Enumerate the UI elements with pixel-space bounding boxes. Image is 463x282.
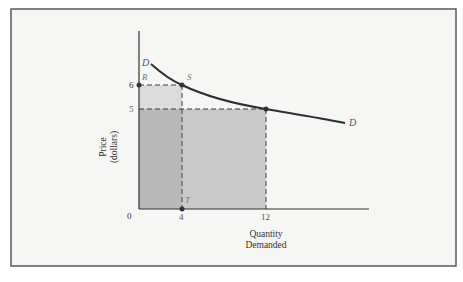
x-axis-label-line2: Demanded	[245, 240, 286, 250]
revenue-area-price-6-top	[139, 85, 182, 109]
x-tick-12: 12	[261, 212, 270, 222]
y-axis-label-line2: (dollars)	[109, 131, 120, 163]
y-tick-5: 5	[129, 104, 134, 114]
curve-label-start: D	[141, 57, 150, 68]
y-axis-label-line1: Price	[98, 137, 108, 157]
x-tick-4: 4	[179, 212, 184, 222]
label-s: S	[187, 72, 192, 82]
point-t	[180, 207, 185, 212]
x-axis-label-line1: Quantity	[249, 229, 282, 239]
point-equilibrium-12-5	[264, 107, 269, 112]
point-s	[180, 83, 185, 88]
y-tick-6: 6	[129, 80, 134, 90]
chart-svg: D D R S T 6 5 0 4 12 Quantity Demanded P…	[0, 0, 463, 282]
chart-figure: D D R S T 6 5 0 4 12 Quantity Demanded P…	[0, 0, 463, 282]
label-r: R	[141, 72, 148, 82]
origin-label: 0	[127, 211, 132, 221]
point-r	[137, 83, 142, 88]
curve-label-end: D	[348, 117, 357, 128]
revenue-overlap-area	[139, 109, 182, 209]
